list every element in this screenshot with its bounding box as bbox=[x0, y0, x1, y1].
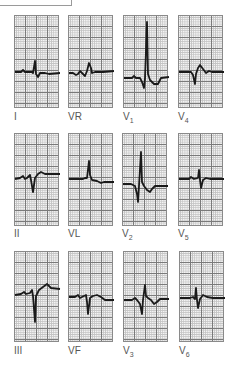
ecg-panel-lead-v1 bbox=[123, 15, 168, 108]
ecg-panel-lead-vl bbox=[68, 133, 113, 226]
lead-label-v2: V2 bbox=[122, 229, 133, 243]
ecg-trace-lead-vf bbox=[69, 252, 114, 343]
ecg-trace-lead-iii bbox=[15, 252, 60, 343]
ecg-trace-lead-v2 bbox=[123, 134, 168, 227]
lead-label-v3: V3 bbox=[123, 346, 134, 360]
lead-label-ii: II bbox=[14, 229, 20, 239]
ecg-panel-lead-ii bbox=[14, 133, 59, 226]
ecg-trace-lead-i bbox=[15, 16, 60, 109]
ecg-trace-lead-ii bbox=[15, 134, 60, 227]
ecg-panel-lead-vr bbox=[68, 15, 113, 108]
ecg-trace-lead-vl bbox=[69, 134, 114, 227]
ecg-trace-lead-v6 bbox=[180, 252, 225, 343]
lead-label-vf: VF bbox=[68, 346, 81, 356]
ecg-trace-lead-v5 bbox=[179, 134, 224, 227]
ecg-panel-lead-v4 bbox=[178, 15, 223, 108]
ecg-panel-lead-vf bbox=[68, 251, 113, 342]
lead-label-i: I bbox=[14, 112, 17, 122]
ecg-panel-lead-v3 bbox=[123, 251, 168, 342]
lead-label-iii: III bbox=[14, 346, 22, 356]
ecg-panel-lead-i bbox=[14, 15, 59, 108]
ecg-trace-lead-v1 bbox=[124, 16, 169, 109]
lead-label-vl: VL bbox=[68, 229, 80, 239]
ecg-panel-lead-v6 bbox=[179, 251, 224, 342]
caption-box bbox=[0, 0, 72, 6]
ecg-trace-lead-vr bbox=[69, 16, 114, 109]
lead-label-v1: V1 bbox=[123, 112, 134, 126]
lead-label-v6: V6 bbox=[179, 346, 190, 360]
ecg-panel-lead-v5 bbox=[178, 133, 223, 226]
lead-label-v5: V5 bbox=[178, 229, 189, 243]
ecg-panel-lead-v2 bbox=[122, 133, 167, 226]
ecg-trace-lead-v4 bbox=[179, 16, 224, 109]
ecg-trace-lead-v3 bbox=[124, 252, 169, 343]
lead-label-vr: VR bbox=[68, 112, 82, 122]
ecg-panel-lead-iii bbox=[14, 251, 59, 342]
lead-label-v4: V4 bbox=[178, 112, 189, 126]
